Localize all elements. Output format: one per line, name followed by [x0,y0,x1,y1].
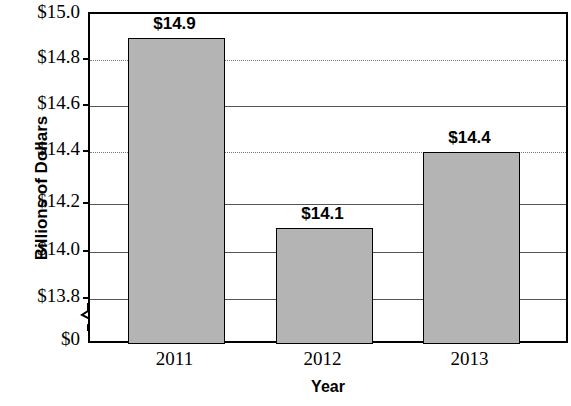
y-tick-label: $14.6 [0,92,80,114]
y-tick-label: $0 [0,328,80,350]
bar-chart: Billions of Dollars $15.0$14.8$14.6$14.4… [0,0,571,406]
bar-2013 [423,152,520,344]
x-category-label: 2012 [274,348,371,370]
bar-value-label: $14.1 [274,204,371,224]
bar-value-label: $14.4 [421,128,518,148]
y-tick-label: $14.8 [0,46,80,68]
bar-2012 [276,228,373,344]
bar-value-label: $14.9 [126,14,223,34]
x-category-label: 2013 [421,348,518,370]
plot-area [88,12,568,343]
y-tick-label: $14.2 [0,190,80,212]
y-tick-label: $14.0 [0,238,80,260]
y-tick-label: $15.0 [0,1,80,23]
x-category-label: 2011 [126,348,223,370]
bar-2011 [128,38,225,344]
y-tick-label: $13.8 [0,285,80,307]
x-axis-title: Year [88,378,568,396]
y-tick-label: $14.4 [0,138,80,160]
